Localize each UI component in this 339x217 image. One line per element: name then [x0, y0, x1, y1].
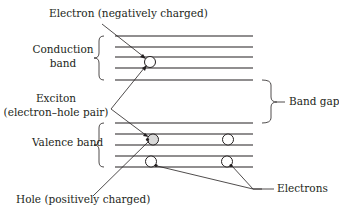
label-valence-band: Valence band [31, 136, 103, 148]
label-electron-hole-pair: (electron–hole pair) [4, 106, 109, 118]
electrons-pointer-right [232, 166, 253, 189]
electron-arrow [102, 24, 144, 57]
label-electron-negatively-charged: Electron (negatively charged) [49, 7, 208, 19]
exciton-pointer [111, 67, 147, 136]
valence-circle-right-upper [223, 134, 234, 145]
label-conduction-band: band [50, 57, 77, 69]
label-exciton: Exciton [36, 92, 76, 104]
electron-dot-left [154, 164, 157, 167]
hole-arrow [93, 141, 149, 196]
band-gap-brace-icon [262, 80, 277, 123]
electrons-pointer-left [157, 166, 262, 189]
label-electrons: Electrons [277, 182, 328, 194]
label-conduction: Conduction [32, 43, 93, 55]
conduction-brace-icon [94, 36, 104, 80]
conduction-band-lines [115, 36, 253, 80]
label-hole-positively-charged: Hole (positively charged) [16, 193, 150, 205]
label-band-gap: Band gap [289, 95, 339, 107]
electron-dot-exciton [146, 138, 149, 141]
exciton-band-diagram: Electron (negatively charged) Conduction… [0, 0, 339, 217]
valence-hole-circle-exciton [148, 134, 159, 145]
